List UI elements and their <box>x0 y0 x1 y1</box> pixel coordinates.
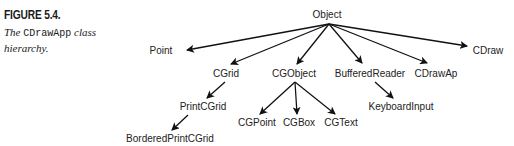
arrow-object-cdrawap <box>329 24 427 63</box>
node-cgpoint: CGPoint <box>238 117 276 128</box>
arrow-cgobject-cgbox <box>295 82 297 114</box>
arrow-printcgrid-borderedprintcgrid <box>172 115 188 130</box>
arrow-cgobject-cgtext <box>295 82 335 114</box>
node-object: Object <box>313 9 342 20</box>
node-cdrawap: CDrawAp <box>415 68 458 79</box>
class-hierarchy-diagram: Object Point CGrid CGObject BufferedRead… <box>0 0 514 146</box>
node-borderedprintcgrid: BorderedPrintCGrid <box>126 133 214 144</box>
node-bufferedreader: BufferedReader <box>335 68 406 79</box>
arrow-object-cdraw <box>329 24 467 46</box>
arrow-object-cgrid <box>231 24 329 64</box>
arrow-bufferedreader-keyboardinput <box>375 82 393 98</box>
node-printcgrid: PrintCGrid <box>180 101 227 112</box>
node-cgobject: CGObject <box>272 68 316 79</box>
node-keyboardinput: KeyboardInput <box>368 101 433 112</box>
arrow-cgobject-cgpoint <box>260 82 295 114</box>
node-cgtext: CGText <box>324 117 358 128</box>
node-cgrid: CGrid <box>213 68 239 79</box>
arrow-cgrid-printcgrid <box>207 82 225 98</box>
node-cdraw: CDraw <box>473 45 504 56</box>
node-cgbox: CGBox <box>283 117 315 128</box>
arrow-object-bufferedreader <box>329 24 362 63</box>
node-point: Point <box>150 45 173 56</box>
arrow-object-point <box>187 24 329 50</box>
